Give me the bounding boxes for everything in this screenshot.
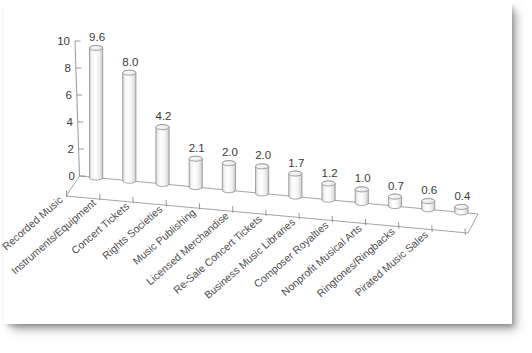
chart-card: [4, 2, 512, 324]
chart-page: 10 8 6 4 2 0 9.68.04.22.12.02.01.71.21.0…: [0, 0, 532, 353]
